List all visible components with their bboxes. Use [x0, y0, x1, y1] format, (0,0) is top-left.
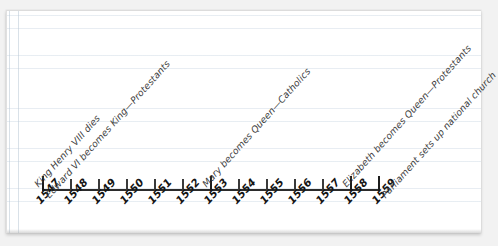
year-label-1555: 1555 [257, 176, 286, 206]
year-label-1550: 1550 [117, 176, 146, 206]
year-label-1549: 1549 [89, 176, 118, 206]
year-label-1556: 1556 [285, 176, 314, 206]
event-label-1553-2: Mary becomes Queen—Catholics [200, 66, 313, 189]
year-label-1554: 1554 [229, 176, 258, 206]
year-label-1557: 1557 [313, 176, 342, 206]
year-label-1552: 1552 [173, 176, 202, 206]
year-label-1551: 1551 [145, 176, 174, 206]
